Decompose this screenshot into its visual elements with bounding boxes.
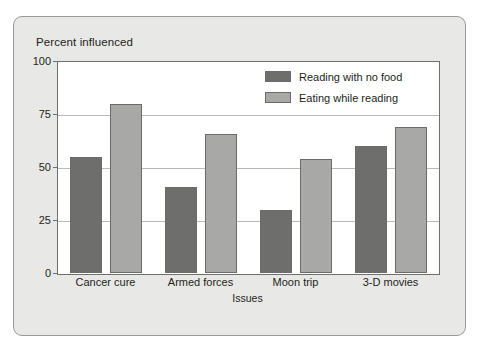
- y-tick-label-0: 0: [23, 267, 51, 279]
- legend-swatch-icon-dark: [265, 71, 291, 82]
- bar: [395, 127, 427, 273]
- legend-item-1: Eating while reading: [265, 89, 425, 106]
- y-tick-label-75: 75: [23, 108, 51, 120]
- x-tick-label: Armed forces: [168, 276, 233, 288]
- bar: [205, 134, 237, 273]
- legend-label-0: Reading with no food: [299, 71, 402, 83]
- y-tick-label-25: 25: [23, 214, 51, 226]
- bar: [300, 159, 332, 273]
- legend-swatch-icon-light: [265, 92, 291, 103]
- bar-group: [58, 62, 153, 273]
- x-tick-label: Cancer cure: [76, 276, 136, 288]
- legend-label-1: Eating while reading: [299, 92, 398, 104]
- x-tick-label: 3-D movies: [363, 276, 419, 288]
- bar: [70, 157, 102, 273]
- bar: [260, 210, 292, 273]
- x-axis-title: Issues: [57, 292, 438, 304]
- legend-item-0: Reading with no food: [265, 68, 425, 85]
- x-axis-labels: Cancer cureArmed forcesMoon trip3-D movi…: [58, 276, 438, 292]
- chart-figure: Percent influenced 0255075100 Cancer cur…: [0, 0, 480, 353]
- chart-legend: Reading with no food Eating while readin…: [265, 68, 425, 110]
- bar: [110, 104, 142, 273]
- y-tick-label-100: 100: [23, 55, 51, 67]
- bar-group: [153, 62, 248, 273]
- chart-title: Percent influenced: [36, 36, 133, 48]
- bar: [355, 146, 387, 273]
- bar: [165, 187, 197, 274]
- x-tick-label: Moon trip: [273, 276, 319, 288]
- y-tick-label-50: 50: [23, 161, 51, 173]
- y-axis-labels: 0255075100: [21, 61, 51, 273]
